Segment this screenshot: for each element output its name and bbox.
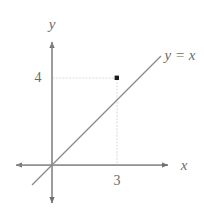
x-axis-label: x [181, 158, 188, 173]
x-axis-tick-label-3: 3 [114, 174, 121, 188]
data-point-marker [115, 76, 119, 80]
plot-canvas [0, 0, 204, 212]
y-axis-label: y [49, 17, 56, 32]
curve-equation-label: y = x [165, 48, 196, 63]
graph-figure: y x y = x 4 3 [0, 0, 204, 212]
y-axis-tick-label-4: 4 [35, 71, 42, 85]
line-y-equals-x [32, 56, 161, 185]
